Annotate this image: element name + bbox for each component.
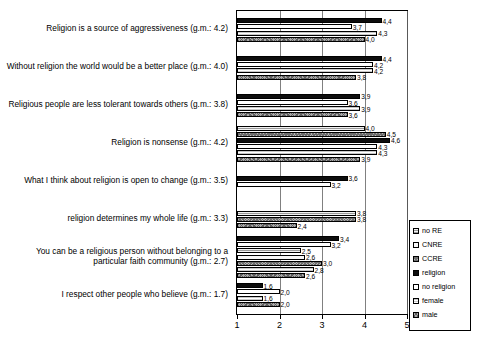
category-label: You can be a religious person without be… (0, 246, 228, 267)
legend-swatch-no-RE (413, 228, 419, 234)
legend-label: religion (422, 269, 445, 277)
legend-swatch-religion (413, 270, 419, 276)
bar-group: 3,83,82,4 (237, 211, 407, 228)
bar-no-religion: 3,2 (237, 242, 331, 247)
legend-item-no-RE[interactable]: no RE (413, 224, 467, 238)
legend-item-no-religion[interactable]: no religion (413, 280, 467, 294)
legend-label: male (422, 311, 438, 319)
bar-male: 2,4 (237, 223, 297, 228)
bar-value-label: 4,0 (366, 36, 375, 43)
plot-area: 4,43,74,34,04,44,24,23,83,93,63,93,64,04… (236, 10, 408, 315)
legend-swatch-CNRE (413, 242, 419, 248)
bar-no-religion: 4,2 (237, 62, 373, 67)
bar-male: 3,6 (237, 112, 348, 117)
bar-female: 3,9 (237, 106, 360, 111)
bar-group: 4,44,24,23,8 (237, 56, 407, 80)
bar-value-label: 3,9 (361, 105, 370, 112)
bar-religion: 4,4 (237, 56, 382, 61)
bar-female: 4,2 (237, 68, 373, 73)
bar-value-label: 2,0 (281, 301, 290, 308)
legend-item-religion[interactable]: religion (413, 266, 467, 280)
bar-value-label: 3,6 (349, 111, 358, 118)
bar-male: 4,0 (237, 37, 365, 42)
bar-male: 3,8 (237, 75, 356, 80)
legend-swatch-female (413, 298, 419, 304)
bar-value-label: 3,6 (349, 175, 358, 182)
bar-religion: 1,6 (237, 283, 263, 288)
bar-value-label: 3,6 (349, 99, 358, 106)
gridline-5 (407, 11, 408, 314)
legend-item-female[interactable]: female (413, 294, 467, 308)
bar-value-label: 4,3 (378, 149, 387, 156)
bar-male: 2,6 (237, 273, 305, 278)
bar-male: 3,9 (237, 157, 360, 162)
chart-legend: no RECNRECCREreligionno religionfemalema… (409, 220, 471, 331)
legend-label: CCRE (422, 255, 442, 263)
bar-male: 2,0 (237, 302, 280, 307)
category-label: Religion is a source of aggressiveness (… (0, 23, 228, 34)
bar-group: 3,93,63,93,6 (237, 94, 407, 118)
bar-value-label: 4,6 (391, 137, 400, 144)
x-tick-label-3: 3 (319, 320, 324, 330)
legend-swatch-CCRE (413, 256, 419, 262)
bar-female: 1,6 (237, 296, 263, 301)
x-tick-1 (237, 315, 238, 319)
bar-no-religion: 3,6 (237, 100, 348, 105)
bar-CCRE: 3,0 (237, 261, 322, 266)
bar-no-RE: 2,5 (237, 248, 301, 253)
bar-no-RE: 4,0 (237, 126, 365, 131)
x-axis: 12345 (236, 315, 408, 335)
bar-no-religion: 2,0 (237, 289, 280, 294)
legend-item-CCRE[interactable]: CCRE (413, 252, 467, 266)
x-tick-label-2: 2 (277, 320, 282, 330)
bar-group: 1,62,01,62,0 (237, 283, 407, 307)
x-tick-3 (322, 315, 323, 319)
bar-value-label: 3,2 (332, 241, 341, 248)
bar-no-RE: 3,8 (237, 211, 356, 216)
bar-value-label: 3,9 (361, 156, 370, 163)
bar-religion: 3,9 (237, 94, 360, 99)
bar-religion: 4,6 (237, 138, 390, 143)
legend-label: female (422, 297, 444, 305)
bar-value-label: 3,2 (332, 181, 341, 188)
legend-swatch-no-religion (413, 284, 419, 290)
bar-female: 4,3 (237, 31, 377, 36)
category-label: Religious people are less tolerant towar… (0, 99, 228, 110)
legend-label: CNRE (422, 241, 442, 249)
bar-value-label: 3,9 (361, 93, 370, 100)
bar-religion: 3,4 (237, 236, 339, 241)
bar-no-religion: 4,3 (237, 144, 377, 149)
bar-CNRE: 2,6 (237, 255, 305, 260)
category-label: religion determines my whole life (g.m.:… (0, 213, 228, 224)
legend-label: no RE (422, 227, 442, 235)
bar-value-label: 1,6 (264, 282, 273, 289)
bar-group: 4,43,74,34,0 (237, 18, 407, 42)
bar-value-label: 1,6 (264, 295, 273, 302)
legend-item-CNRE[interactable]: CNRE (413, 238, 467, 252)
bar-no-religion: 3,2 (237, 182, 331, 187)
bar-CCRE: 3,8 (237, 217, 356, 222)
category-label-column: Religion is a source of aggressiveness (… (0, 0, 232, 318)
bar-value-label: 2,6 (306, 254, 315, 261)
bar-female: 2,8 (237, 267, 314, 272)
legend-item-male[interactable]: male (413, 308, 467, 322)
horizontal-bar-chart: Religion is a source of aggressiveness (… (0, 0, 481, 347)
x-tick-5 (407, 315, 408, 319)
bar-value-label: 3,8 (357, 216, 366, 223)
category-label: What I think about religion is open to c… (0, 175, 228, 186)
x-tick-2 (280, 315, 281, 319)
plot-inner: 4,43,74,34,04,44,24,23,83,93,63,93,64,04… (237, 11, 407, 314)
x-tick-label-4: 4 (362, 320, 367, 330)
bar-value-label: 2,4 (298, 222, 307, 229)
bar-value-label: 3,0 (323, 260, 332, 267)
bar-group: 3,63,2 (237, 176, 407, 187)
bar-value-label: 2,0 (281, 288, 290, 295)
x-tick-label-1: 1 (234, 320, 239, 330)
category-label: I respect other people who believe (g.m.… (0, 289, 228, 300)
bar-value-label: 3,4 (340, 235, 349, 242)
x-tick-4 (365, 315, 366, 319)
bar-value-label: 2,8 (315, 266, 324, 273)
bar-female: 4,3 (237, 150, 377, 155)
bar-value-label: 4,4 (383, 55, 392, 62)
bar-value-label: 4,0 (366, 125, 375, 132)
